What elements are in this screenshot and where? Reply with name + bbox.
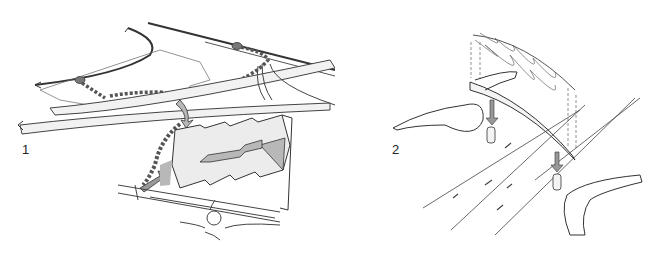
- embankment-right: [564, 175, 642, 235]
- pier-arrow-right: [551, 152, 563, 172]
- panel-1-number: 1: [22, 142, 29, 157]
- traffic-arrows: [453, 143, 512, 210]
- roundabout-node-right: [232, 43, 242, 50]
- bridge-exploded-drawing: [335, 0, 669, 254]
- pier-left: [487, 127, 495, 143]
- site-plan-drawing: [0, 0, 335, 254]
- embankment-left: [393, 104, 483, 131]
- bridge-deck: [470, 82, 575, 160]
- pier-arrow-left: [486, 100, 498, 125]
- panel-2-number: 2: [392, 142, 399, 157]
- panel-2-bridge-sketch: 2: [335, 0, 669, 254]
- panel-1-site-sketch: 1: [0, 0, 335, 254]
- pier-right: [553, 174, 561, 190]
- roundabout: [207, 211, 221, 225]
- curved-road: [35, 28, 152, 85]
